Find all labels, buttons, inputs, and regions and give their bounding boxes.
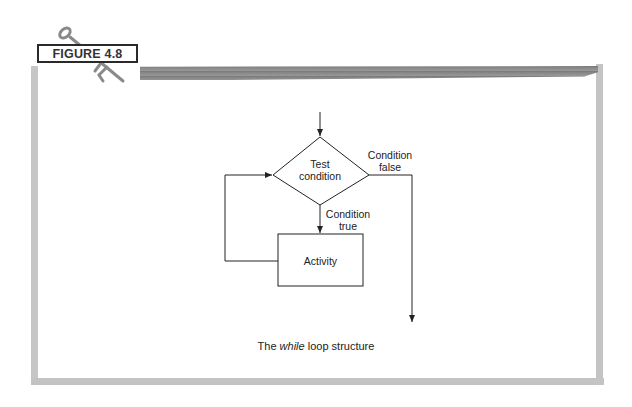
- figure-caption: The while loop structure: [200, 340, 432, 352]
- loop-back-arrow: [225, 175, 278, 261]
- false-exit-arrow: [369, 175, 412, 322]
- activity-label: Activity: [278, 255, 363, 267]
- true-label: Condition true: [318, 208, 378, 232]
- false-label: Condition false: [360, 149, 420, 173]
- decision-label: Test condition: [285, 158, 355, 182]
